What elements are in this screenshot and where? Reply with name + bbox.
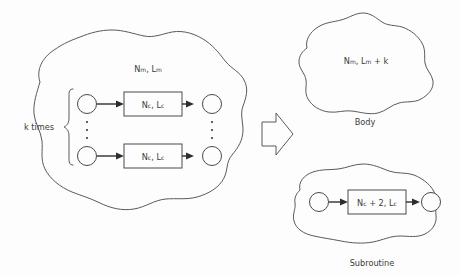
row-top-label-mid: , L — [151, 99, 161, 109]
loop-region-outline — [34, 30, 247, 210]
k-times-label: k times — [24, 122, 54, 132]
subroutine-process-label: Nc + 2, Lc — [357, 197, 397, 207]
diagram-svg: Nm, Lm k times Nc, Lc — [0, 0, 460, 275]
subroutine-end-node[interactable] — [422, 193, 441, 212]
subroutine-start-node[interactable] — [310, 193, 329, 212]
subroutine-region-caption: Subroutine — [350, 258, 395, 268]
row-top-label-l-sub: c — [161, 102, 164, 109]
diagram-canvas: Nm, Lm k times Nc, Lc — [0, 0, 460, 275]
row-bottom-start-node[interactable] — [78, 147, 97, 166]
row-top-end-node[interactable] — [203, 95, 222, 114]
row-bottom-process-label: Nc, Lc — [142, 151, 165, 161]
subroutine-label-l-sub: c — [394, 200, 397, 207]
subroutine-region-group[interactable]: Nc + 2, Lc Subroutine — [293, 164, 440, 268]
row-top-process-label: Nc, Lc — [142, 99, 165, 109]
row-bottom-label-mid: , L — [151, 151, 161, 161]
row-top-start-node[interactable] — [78, 95, 97, 114]
loop-module-label-mid: , L — [146, 64, 156, 74]
body-label-tail: + k — [371, 56, 388, 66]
body-region-group[interactable]: Nm, Lm + k Body — [299, 13, 433, 127]
body-label-mid: , L — [356, 56, 366, 66]
body-region-caption: Body — [355, 117, 376, 127]
row-bottom-label-l-sub: c — [161, 154, 164, 161]
loop-region-group[interactable]: Nm, Lm k times Nc, Lc — [24, 30, 247, 210]
transformation-arrow-icon[interactable] — [262, 113, 293, 155]
subroutine-label-mid: + 2, L — [367, 197, 394, 207]
loop-module-label-l-sub: m — [156, 66, 162, 73]
row-bottom-end-node[interactable] — [203, 147, 222, 166]
